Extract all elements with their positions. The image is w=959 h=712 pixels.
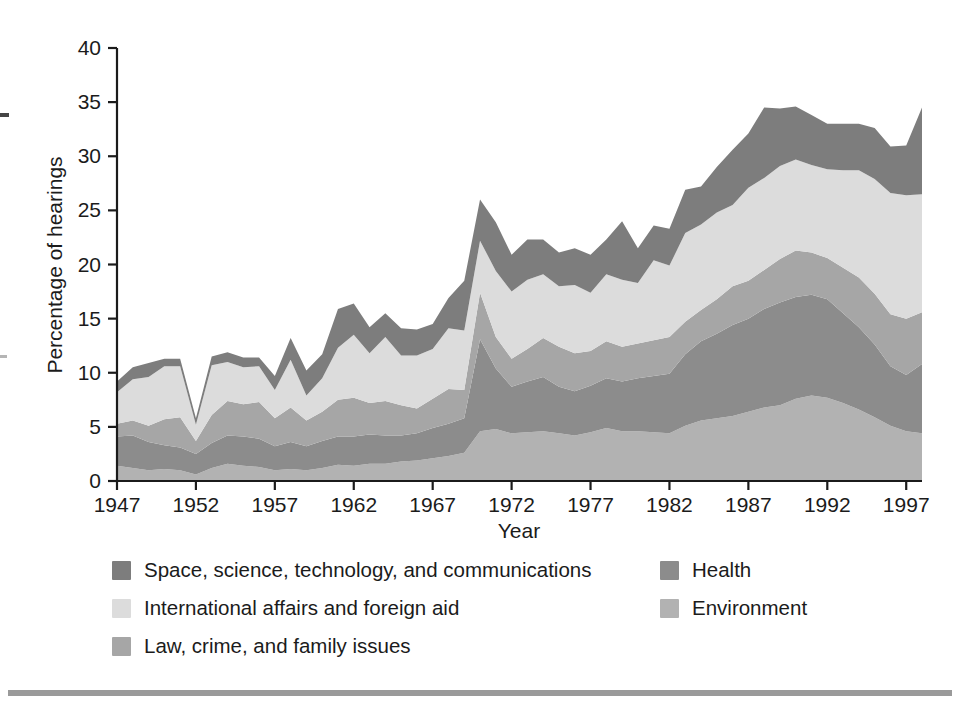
legend-item[interactable]: Law, crime, and family issues xyxy=(112,628,592,664)
legend-item-label: Health xyxy=(692,560,751,580)
x-axis-tick-label: 1947 xyxy=(94,493,141,516)
y-axis-tick-label: 25 xyxy=(78,198,101,221)
legend-item-label: Law, crime, and family issues xyxy=(144,636,411,656)
x-axis-tick-label: 1967 xyxy=(409,493,456,516)
y-axis-tick-label: 20 xyxy=(78,253,101,276)
legend-column-left: Space, science, technology, and communic… xyxy=(112,552,592,666)
y-axis-tick-label: 10 xyxy=(78,361,101,384)
legend-item-label: Space, science, technology, and communic… xyxy=(144,560,591,580)
y-axis-tick-label: 15 xyxy=(78,307,101,330)
chart-legend: Space, science, technology, and communic… xyxy=(112,552,912,664)
y-axis-tick-labels: 0510152025303540 xyxy=(78,36,101,492)
x-axis-tick-label: 1957 xyxy=(251,493,298,516)
chart-area-bands xyxy=(117,106,922,481)
figure-container: 0510152025303540 19471952195719621967197… xyxy=(0,0,959,712)
legend-color-swatch xyxy=(112,599,131,618)
legend-item[interactable]: International affairs and foreign aid xyxy=(112,590,592,626)
y-axis-tick-label: 40 xyxy=(78,36,101,59)
y-axis-tick-label: 35 xyxy=(78,90,101,113)
legend-item[interactable]: Space, science, technology, and communic… xyxy=(112,552,592,588)
legend-color-swatch xyxy=(112,637,131,656)
legend-color-swatch xyxy=(660,561,679,580)
legend-item[interactable]: Environment xyxy=(660,590,920,626)
x-axis-tick-label: 1997 xyxy=(883,493,930,516)
y-axis-tick-label: 30 xyxy=(78,144,101,167)
x-axis-tick-labels: 1947195219571962196719721977198219871992… xyxy=(94,493,930,516)
x-axis-tick-label: 1987 xyxy=(725,493,772,516)
y-axis-title: Percentage of hearings xyxy=(43,156,66,373)
x-axis-title: Year xyxy=(498,519,540,542)
legend-color-swatch xyxy=(112,561,131,580)
stacked-area-chart: 0510152025303540 19471952195719621967197… xyxy=(0,0,959,560)
x-axis-tick-label: 1977 xyxy=(567,493,614,516)
y-axis-ticks xyxy=(108,48,117,481)
y-axis-tick-label: 0 xyxy=(89,469,101,492)
x-axis-tick-label: 1992 xyxy=(804,493,851,516)
page-edge-mark xyxy=(0,113,9,117)
y-axis-tick-label: 5 xyxy=(89,415,101,438)
bottom-divider-rule xyxy=(8,690,952,696)
x-axis-tick-label: 1972 xyxy=(488,493,535,516)
x-axis-tick-label: 1962 xyxy=(330,493,377,516)
page-edge-mark xyxy=(0,355,7,358)
legend-color-swatch xyxy=(660,599,679,618)
x-axis-tick-label: 1982 xyxy=(646,493,693,516)
legend-item-label: Environment xyxy=(692,598,807,618)
legend-column-right: HealthEnvironment xyxy=(660,552,920,628)
x-axis-tick-label: 1952 xyxy=(173,493,220,516)
legend-item-label: International affairs and foreign aid xyxy=(144,598,459,618)
legend-item[interactable]: Health xyxy=(660,552,920,588)
x-axis-ticks xyxy=(117,481,906,490)
